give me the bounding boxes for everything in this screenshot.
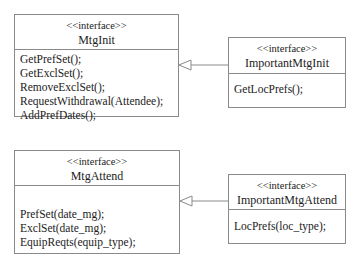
hollow-triangle-arrowhead-icon xyxy=(179,60,191,70)
operation: RemoveExclSet(); xyxy=(20,80,176,94)
interface-name: MtgAttend xyxy=(15,168,179,184)
operation: RequestWithdrawal(Attendee); xyxy=(20,94,176,108)
operation: GetPrefSet(); xyxy=(20,52,176,66)
hollow-triangle-arrowhead-icon xyxy=(180,196,192,206)
stereotype-label: <<interface>> xyxy=(15,155,179,168)
operation: GetExclSet(); xyxy=(20,66,176,80)
interface-importantmtgattend: <<interface>> ImportantMtgAttend LocPref… xyxy=(228,174,346,244)
operation: EquipReqts(equip_type); xyxy=(20,235,177,249)
operations-list: GetPrefSet(); GetExclSet(); RemoveExclSe… xyxy=(20,52,176,122)
interface-name: MtgInit xyxy=(15,32,178,48)
operation: GetLocPrefs(); xyxy=(234,82,343,96)
interface-header: <<interface>> ImportantMtgAttend xyxy=(229,175,345,210)
interface-mtginit: <<interface>> MtgInit GetPrefSet(); GetE… xyxy=(14,14,179,117)
operations-list: LocPrefs(loc_type); xyxy=(234,219,343,233)
interface-name: ImportantMtgInit xyxy=(229,55,345,71)
stereotype-label: <<interface>> xyxy=(15,19,178,32)
operation: PrefSet(date_mg); xyxy=(20,207,177,221)
operations-list: PrefSet(date_mg); ExclSet(date_mg); Equi… xyxy=(20,207,177,249)
stereotype-label: <<interface>> xyxy=(229,42,345,55)
operation: ExclSet(date_mg); xyxy=(20,221,177,235)
operation: AddPrefDates(); xyxy=(20,108,176,122)
stereotype-label: <<interface>> xyxy=(229,179,345,192)
generalization-arrow-importantmtgattend-to-mtgattend xyxy=(180,196,228,206)
interface-header: <<interface>> MtgInit xyxy=(15,15,178,50)
interface-header: <<interface>> MtgAttend xyxy=(15,151,179,186)
generalization-arrow-importantmtginit-to-mtginit xyxy=(179,60,228,70)
operations-list: GetLocPrefs(); xyxy=(234,82,343,96)
interface-header: <<interface>> ImportantMtgInit xyxy=(229,38,345,74)
interface-mtgattend: <<interface>> MtgAttend PrefSet(date_mg)… xyxy=(14,150,180,254)
operation: LocPrefs(loc_type); xyxy=(234,219,343,233)
interface-importantmtginit: <<interface>> ImportantMtgInit GetLocPre… xyxy=(228,37,346,108)
interface-name: ImportantMtgAttend xyxy=(229,192,345,208)
